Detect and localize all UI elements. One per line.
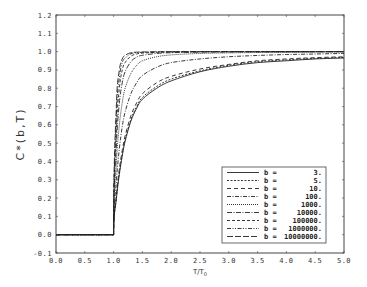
legend-b-value: 1000. bbox=[301, 201, 322, 209]
y-tick-label: 0.7 bbox=[38, 103, 52, 111]
legend-b-value: 10. bbox=[309, 185, 322, 193]
legend-b-label: b = bbox=[264, 169, 277, 177]
y-tick-label: 0.1 bbox=[38, 213, 52, 221]
x-tick-label: 0.5 bbox=[78, 257, 92, 265]
legend-b-value: 100000. bbox=[292, 217, 322, 225]
x-axis-label: T/T0 bbox=[192, 268, 207, 277]
legend-b-label: b = bbox=[264, 217, 277, 225]
x-tick-label: 5.0 bbox=[337, 257, 351, 265]
y-tick-label: 0.5 bbox=[38, 140, 52, 148]
y-tick-label: 0.4 bbox=[38, 158, 52, 166]
legend-b-label: b = bbox=[264, 225, 277, 233]
x-tick-label: 2.0 bbox=[164, 257, 178, 265]
legend-b-label: b = bbox=[264, 177, 277, 185]
x-tick-label: 4.0 bbox=[279, 257, 293, 265]
y-axis-label: C*(b,T) bbox=[14, 108, 27, 161]
y-tick-label: 1.0 bbox=[38, 48, 52, 56]
legend-b-label: b = bbox=[264, 201, 277, 209]
legend-b-value: 1000000. bbox=[288, 225, 322, 233]
y-tick-label: -0.1 bbox=[33, 250, 52, 258]
legend-b-value: 10000. bbox=[297, 209, 322, 217]
y-tick-label: 0.0 bbox=[38, 231, 52, 239]
legend-b-value: 100. bbox=[305, 193, 322, 201]
legend-b-label: b = bbox=[264, 185, 277, 193]
y-tick-label: 1.1 bbox=[38, 30, 52, 38]
legend-b-label: b = bbox=[264, 193, 277, 201]
chart: 0.00.51.01.52.02.53.03.54.04.55.0 -0.10.… bbox=[0, 0, 367, 287]
x-tick-label: 1.5 bbox=[135, 257, 149, 265]
x-tick-label: 2.5 bbox=[193, 257, 207, 265]
legend-b-label: b = bbox=[264, 209, 277, 217]
y-tick-label: 1.2 bbox=[38, 12, 52, 20]
legend-b-label: b = bbox=[264, 233, 277, 241]
y-tick-label: 0.2 bbox=[38, 195, 52, 203]
legend: b =3.b =5.b =10.b =100.b =1000.b =10000.… bbox=[222, 167, 326, 243]
legend-b-value: 10000000. bbox=[284, 233, 322, 241]
x-tick-label: 4.5 bbox=[308, 257, 322, 265]
legend-b-value: 3. bbox=[314, 169, 322, 177]
legend-b-value: 5. bbox=[314, 177, 322, 185]
x-tick-label: 3.5 bbox=[251, 257, 265, 265]
x-tick-label: 1.0 bbox=[107, 257, 121, 265]
y-tick-label: 0.9 bbox=[38, 66, 52, 74]
y-tick-label: 0.6 bbox=[38, 121, 52, 129]
y-tick-label: 0.3 bbox=[38, 176, 52, 184]
y-tick-label: 0.8 bbox=[38, 85, 52, 93]
x-tick-label: 3.0 bbox=[222, 257, 236, 265]
x-tick-label: 0.0 bbox=[49, 257, 63, 265]
